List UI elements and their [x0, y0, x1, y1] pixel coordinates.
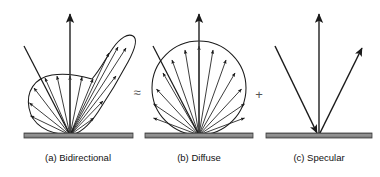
bidirectional-surface-bar [24, 133, 133, 138]
panel-diffuse: (b) Diffuse [145, 14, 253, 163]
specular-incoming-ray [275, 46, 317, 133]
specular-surface-bar [266, 133, 372, 138]
panel-bidirectional: (a) Bidirectional [24, 14, 135, 163]
caption-bidirectional: (a) Bidirectional [45, 152, 111, 163]
diffuse-surface-bar [145, 133, 253, 138]
caption-specular: (c) Specular [293, 152, 344, 163]
brdf-decomposition-figure: (a) Bidirectional ≈ [0, 0, 380, 177]
operator-plus: + [255, 87, 263, 102]
diagram-canvas: (a) Bidirectional ≈ [0, 0, 380, 177]
operator-approx-equal: ≈ [133, 85, 140, 100]
panel-specular: (c) Specular [266, 14, 372, 163]
caption-diffuse: (b) Diffuse [177, 152, 221, 163]
specular-reflected-ray [319, 48, 362, 135]
